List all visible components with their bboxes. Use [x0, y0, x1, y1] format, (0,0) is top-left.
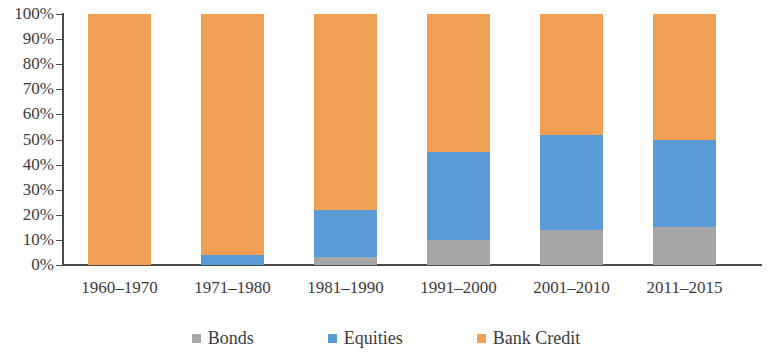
- legend-item[interactable]: Bonds: [192, 328, 254, 348]
- x-axis-label: 1960–1970: [63, 278, 176, 298]
- y-axis-label: 70%: [0, 80, 54, 97]
- x-axis-label: 1971–1980: [176, 278, 289, 298]
- bar-segment-bank-credit[interactable]: [314, 14, 377, 210]
- stacked-bar[interactable]: [427, 14, 490, 265]
- stacked-bar[interactable]: [314, 14, 377, 265]
- legend-swatch-icon: [477, 334, 486, 343]
- y-axis-tick: [56, 140, 63, 141]
- bar-segment-equities[interactable]: [201, 255, 264, 265]
- y-axis-tick: [56, 64, 63, 65]
- legend-label: Bonds: [208, 328, 254, 348]
- y-axis-label: 20%: [0, 206, 54, 223]
- y-axis-label: 10%: [0, 231, 54, 248]
- y-axis-label: 50%: [0, 131, 54, 148]
- stacked-bar[interactable]: [540, 14, 603, 265]
- legend-item[interactable]: Bank Credit: [477, 328, 581, 348]
- legend-swatch-icon: [328, 334, 337, 343]
- legend-swatch-icon: [192, 334, 201, 343]
- y-axis-tick: [56, 190, 63, 191]
- x-axis-label: 1991–2000: [402, 278, 515, 298]
- bar-segment-equities[interactable]: [427, 152, 490, 240]
- stacked-bar-chart: 100%90%80%70%60%50%40%30%20%10%0% 1960–1…: [0, 0, 772, 356]
- y-axis-tick: [56, 265, 63, 266]
- legend-item[interactable]: Equities: [328, 328, 403, 348]
- x-axis-label: 2011–2015: [628, 278, 741, 298]
- y-axis-tick: [56, 114, 63, 115]
- bar-segment-equities[interactable]: [314, 210, 377, 258]
- bar-segment-bank-credit[interactable]: [201, 14, 264, 255]
- y-axis-label: 40%: [0, 156, 54, 173]
- y-axis-label: 90%: [0, 30, 54, 47]
- y-axis-label: 60%: [0, 105, 54, 122]
- y-axis-tick: [56, 240, 63, 241]
- x-axis-label: 1981–1990: [289, 278, 402, 298]
- y-axis-label: 100%: [0, 5, 54, 22]
- stacked-bar[interactable]: [201, 14, 264, 265]
- legend-label: Equities: [344, 328, 403, 348]
- bar-segment-equities[interactable]: [540, 135, 603, 230]
- bar-segment-bonds[interactable]: [540, 230, 603, 265]
- bar-segment-bonds[interactable]: [427, 240, 490, 265]
- chart-legend: BondsEquitiesBank Credit: [0, 328, 772, 348]
- bar-segment-bank-credit[interactable]: [540, 14, 603, 134]
- y-axis-tick: [56, 215, 63, 216]
- bar-segment-bank-credit[interactable]: [88, 14, 151, 265]
- stacked-bar[interactable]: [88, 14, 151, 265]
- y-axis-tick: [56, 89, 63, 90]
- bar-segment-bonds[interactable]: [314, 257, 377, 265]
- bar-segment-bonds[interactable]: [653, 227, 716, 265]
- legend-label: Bank Credit: [493, 328, 581, 348]
- y-axis-tick: [56, 14, 63, 15]
- y-axis-tick: [56, 39, 63, 40]
- y-axis-tick: [56, 165, 63, 166]
- bar-segment-equities[interactable]: [653, 140, 716, 228]
- y-axis-label: 30%: [0, 181, 54, 198]
- y-axis-label: 0%: [0, 256, 54, 273]
- stacked-bar[interactable]: [653, 14, 716, 265]
- x-axis-label: 2001–2010: [515, 278, 628, 298]
- bar-segment-bank-credit[interactable]: [427, 14, 490, 152]
- y-axis-label: 80%: [0, 55, 54, 72]
- bar-segment-bank-credit[interactable]: [653, 14, 716, 140]
